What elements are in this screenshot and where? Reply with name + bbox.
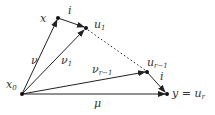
label-u1: u1 xyxy=(94,18,106,32)
label-y: y = ur xyxy=(171,87,206,101)
diagram-canvas: x0 x u1 ur−1 y = ur ν ν1 νr−1 μ i i xyxy=(0,0,215,115)
node-ur1 xyxy=(145,70,149,74)
label-mu: μ xyxy=(94,97,101,110)
node-y xyxy=(165,92,169,96)
label-x: x xyxy=(40,12,47,25)
node-x xyxy=(56,16,60,20)
node-u1 xyxy=(84,26,88,30)
label-nu: ν xyxy=(31,54,38,67)
label-x0: x0 xyxy=(6,78,17,92)
label-nur1: νr−1 xyxy=(92,63,112,77)
node-x0 xyxy=(20,92,24,96)
label-ur1: ur−1 xyxy=(147,56,168,70)
edge-nu xyxy=(22,20,57,94)
label-nu1: ν1 xyxy=(61,54,72,68)
label-i-bottom: i xyxy=(160,70,164,83)
edge-i-top xyxy=(58,18,84,27)
label-i-top: i xyxy=(68,4,72,17)
